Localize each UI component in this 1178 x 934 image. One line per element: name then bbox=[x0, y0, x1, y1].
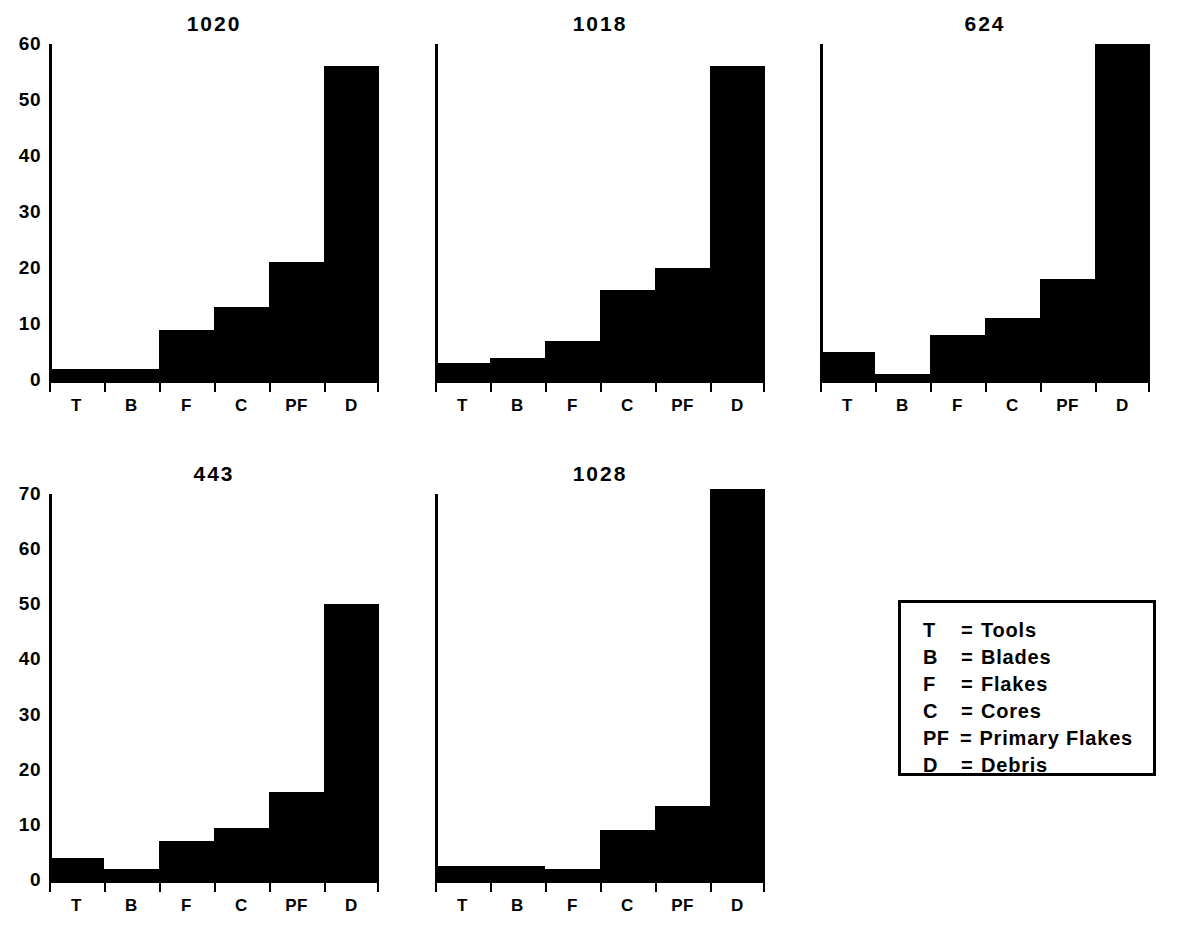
y-tick-label: 40 bbox=[0, 145, 41, 167]
bar-PF bbox=[655, 268, 710, 380]
panel-title: 1020 bbox=[187, 12, 242, 36]
bar-F bbox=[930, 335, 985, 380]
panel-title: 1028 bbox=[573, 462, 628, 486]
legend-equals-sign: = bbox=[961, 644, 981, 671]
panel-title: 443 bbox=[193, 462, 234, 486]
legend-equals-sign: = bbox=[960, 725, 979, 752]
x-tick bbox=[1095, 383, 1097, 392]
x-tick-label-C: C bbox=[621, 396, 634, 416]
x-tick-label-F: F bbox=[181, 896, 192, 916]
chart-panel-443: 443010203040506070TBFCPFD bbox=[49, 494, 379, 880]
x-tick-label-F: F bbox=[567, 396, 578, 416]
x-tick bbox=[435, 383, 437, 392]
chart-panel-1020: 10200102030405060TBFCPFD bbox=[49, 44, 379, 380]
y-tick-label: 70 bbox=[0, 483, 41, 505]
legend-equals-sign: = bbox=[961, 698, 981, 725]
x-tick-label-D: D bbox=[345, 396, 358, 416]
x-tick bbox=[1148, 383, 1150, 392]
legend-key: C bbox=[923, 698, 961, 725]
legend-key: PF bbox=[923, 725, 960, 752]
y-axis-line bbox=[820, 44, 823, 380]
x-tick bbox=[655, 383, 657, 392]
x-tick bbox=[985, 383, 987, 392]
bar-D bbox=[1095, 44, 1150, 380]
bar-B bbox=[104, 369, 159, 380]
x-tick bbox=[324, 883, 326, 892]
y-tick-label: 60 bbox=[0, 538, 41, 560]
legend-equals-sign: = bbox=[961, 617, 981, 644]
x-tick bbox=[104, 883, 106, 892]
x-tick bbox=[545, 383, 547, 392]
bar-B bbox=[490, 866, 545, 880]
x-tick-label-PF: PF bbox=[1056, 396, 1079, 416]
y-axis-line bbox=[49, 44, 52, 380]
x-tick-label-B: B bbox=[511, 396, 524, 416]
y-tick-label: 10 bbox=[0, 313, 41, 335]
x-tick bbox=[600, 883, 602, 892]
legend-key: T bbox=[923, 617, 961, 644]
x-tick bbox=[490, 383, 492, 392]
x-tick bbox=[875, 383, 877, 392]
x-tick-label-B: B bbox=[511, 896, 524, 916]
bar-PF bbox=[1040, 279, 1095, 380]
x-tick bbox=[820, 383, 822, 392]
x-tick bbox=[159, 383, 161, 392]
y-tick-label: 40 bbox=[0, 648, 41, 670]
x-tick bbox=[763, 383, 765, 392]
x-tick bbox=[214, 383, 216, 392]
x-tick-label-D: D bbox=[345, 896, 358, 916]
x-tick-label-F: F bbox=[952, 396, 963, 416]
x-tick bbox=[600, 383, 602, 392]
bar-B bbox=[104, 869, 159, 880]
legend-equals-sign: = bbox=[961, 752, 981, 779]
legend-value: Debris bbox=[981, 752, 1048, 779]
bar-T bbox=[49, 369, 104, 380]
bar-D bbox=[324, 604, 379, 880]
x-tick bbox=[763, 883, 765, 892]
x-tick bbox=[710, 883, 712, 892]
legend-box: T=ToolsB=BladesF=FlakesC=CoresPF=Primary… bbox=[898, 600, 1156, 776]
x-tick bbox=[377, 883, 379, 892]
legend-row-F: F=Flakes bbox=[923, 671, 1133, 698]
bar-T bbox=[820, 352, 875, 380]
y-tick-label: 0 bbox=[0, 369, 41, 391]
legend-value: Tools bbox=[981, 617, 1037, 644]
x-tick bbox=[324, 383, 326, 392]
bar-D bbox=[710, 489, 765, 881]
x-tick bbox=[490, 883, 492, 892]
bar-PF bbox=[655, 806, 710, 880]
x-tick-label-T: T bbox=[842, 396, 853, 416]
x-tick-label-PF: PF bbox=[671, 896, 694, 916]
chart-panel-1018: 1018TBFCPFD bbox=[435, 44, 765, 380]
x-tick-label-D: D bbox=[1116, 396, 1129, 416]
x-tick bbox=[269, 883, 271, 892]
y-tick-label: 0 bbox=[0, 869, 41, 891]
x-tick bbox=[435, 883, 437, 892]
bar-D bbox=[710, 66, 765, 380]
bar-PF bbox=[269, 262, 324, 380]
x-tick-label-T: T bbox=[457, 896, 468, 916]
x-tick-label-F: F bbox=[181, 396, 192, 416]
x-tick-label-PF: PF bbox=[285, 396, 308, 416]
x-tick bbox=[104, 383, 106, 392]
chart-panel-624: 624TBFCPFD bbox=[820, 44, 1150, 380]
y-tick-label: 50 bbox=[0, 593, 41, 615]
y-tick-label: 50 bbox=[0, 89, 41, 111]
bar-C bbox=[985, 318, 1040, 380]
x-tick bbox=[214, 883, 216, 892]
chart-panel-1028: 1028TBFCPFD bbox=[435, 494, 765, 880]
bar-B bbox=[875, 374, 930, 380]
x-tick-label-B: B bbox=[125, 896, 138, 916]
legend-value: Primary Flakes bbox=[979, 725, 1133, 752]
legend-key: B bbox=[923, 644, 961, 671]
x-tick bbox=[655, 883, 657, 892]
x-tick bbox=[1040, 383, 1042, 392]
panel-title: 1018 bbox=[573, 12, 628, 36]
x-tick bbox=[49, 383, 51, 392]
bar-F bbox=[545, 869, 600, 880]
x-tick-label-B: B bbox=[896, 396, 909, 416]
y-tick-label: 20 bbox=[0, 257, 41, 279]
x-tick-label-B: B bbox=[125, 396, 138, 416]
bar-C bbox=[600, 830, 655, 880]
bar-T bbox=[435, 363, 490, 380]
